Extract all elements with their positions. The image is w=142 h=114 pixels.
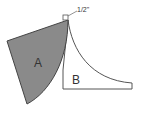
dimension-leader	[68, 11, 77, 16]
diagram: 1/2" A B	[0, 0, 142, 114]
label-a: A	[34, 56, 42, 70]
dimension-label: 1/2"	[77, 6, 90, 13]
label-b: B	[72, 73, 80, 87]
dimension-square	[63, 15, 68, 20]
